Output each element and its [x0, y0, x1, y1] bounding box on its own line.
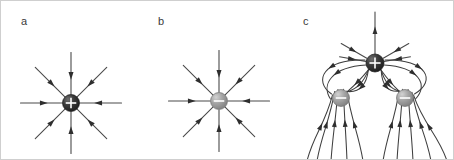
field-arrowhead-c-outer-0 [328, 63, 336, 69]
figure-canvas: a b c [1, 1, 454, 160]
panel-b: b [158, 15, 270, 152]
field-curve-c-outer-2 [385, 60, 426, 94]
field-arrowhead-c-top-0 [373, 26, 378, 33]
negative-charge-c-left-group [333, 90, 350, 107]
field-arrowhead-c-tail-4 [353, 121, 358, 129]
field-arrowhead-c-outer-1 [334, 69, 341, 75]
field-arrowhead-b-4 [188, 98, 196, 103]
panel-c-label: c [303, 15, 309, 27]
panel-b-label: b [158, 15, 164, 27]
field-arrowhead-c-top-1 [349, 46, 357, 52]
field-arrowhead-c-tail-0 [317, 123, 322, 131]
electric-field-figure: a b c [0, 0, 454, 160]
field-arrowhead-c-tail-5 [388, 121, 393, 129]
panel-a: a [21, 15, 122, 154]
negative-charge-b-group [211, 93, 228, 110]
panel-c: c [303, 12, 447, 160]
panel-a-label: a [21, 15, 28, 27]
field-arrowhead-b-2 [216, 124, 221, 132]
positive-charge-c-group [366, 54, 384, 72]
panel-c-field-lines [307, 12, 447, 160]
field-arrowhead-a-2 [68, 126, 73, 134]
panel-b-charge-group [211, 93, 228, 110]
field-arrowhead-c-outer-2 [415, 63, 422, 69]
field-arrowhead-b-0 [242, 98, 250, 103]
field-arrowhead-a-6 [68, 72, 73, 80]
field-arrowhead-b-6 [216, 70, 221, 78]
field-arrowhead-c-outer-3 [409, 69, 416, 75]
field-arrowhead-c-top-2 [394, 46, 402, 52]
field-arrowhead-c-tail-2 [332, 120, 337, 128]
field-arrowhead-c-tail-8 [420, 121, 425, 129]
field-arrowhead-c-tail-1 [323, 121, 328, 129]
field-arrowhead-c-tail-6 [397, 120, 402, 128]
positive-charge-a-group [63, 95, 80, 112]
field-arrowhead-a-0 [94, 100, 102, 105]
field-arrowhead-a-4 [40, 100, 48, 105]
panel-a-charge-group [63, 95, 80, 112]
field-arrowhead-c-tail-9 [427, 123, 433, 131]
negative-charge-c-right-group [397, 90, 414, 107]
